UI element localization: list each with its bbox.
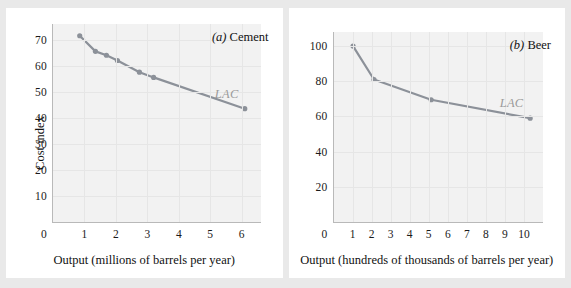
y-axis-tick-cement: 10 (35, 190, 47, 202)
y-axis-tick-beer: 20 (316, 181, 328, 193)
data-point-marker (242, 106, 247, 111)
gridline-vertical (353, 32, 354, 222)
x-axis-tick-beer: 10 (518, 228, 530, 240)
x-axis-tick-beer: 3 (388, 228, 394, 240)
y-axis-tick-beer: 80 (316, 75, 328, 87)
gridline-vertical (410, 32, 411, 222)
x-axis-label-beer: Output (hundreds of thousands of barrels… (289, 253, 566, 268)
gridline-vertical (429, 32, 430, 222)
panel-title-text-cement: Cement (230, 30, 269, 44)
y-axis-tick-beer: 60 (316, 110, 328, 122)
gridline-vertical (486, 32, 487, 222)
x-axis-tick-cement: 1 (82, 228, 88, 240)
gridline-vertical (524, 32, 525, 222)
y-axis-tick-cement: 50 (35, 86, 47, 98)
gridline-vertical (505, 32, 506, 222)
panel-beer: 20406080100012345678910LAC (b) Beer Outp… (289, 8, 566, 278)
lac-series-label-cement: LAC (215, 87, 239, 102)
x-axis-tick-beer: 2 (369, 228, 375, 240)
y-axis-tick-cement: 70 (35, 34, 47, 46)
x-axis-tick-beer: 6 (445, 228, 451, 240)
panel-title-text-beer: Beer (527, 38, 551, 52)
x-axis-label-cement: Output (millions of barrels per year) (6, 253, 283, 268)
panel-title-beer: (b) Beer (510, 38, 551, 53)
gridline-vertical (210, 24, 211, 222)
data-point-marker (104, 53, 109, 58)
figure-container: Cost index 102030405060700123456LAC (a) … (0, 0, 571, 288)
y-axis-tick-cement: 30 (35, 138, 47, 150)
panel-cement: Cost index 102030405060700123456LAC (a) … (6, 8, 283, 278)
x-axis-tick-beer: 7 (464, 228, 470, 240)
x-axis-tick-cement: 5 (207, 228, 213, 240)
x-axis-tick-beer: 8 (483, 228, 489, 240)
gridline-vertical (147, 24, 148, 222)
data-point-marker (93, 49, 98, 54)
gridline-vertical (448, 32, 449, 222)
gridline-vertical (116, 24, 117, 222)
x-axis-tick-cement: 2 (113, 228, 119, 240)
x-axis-tick-cement: 4 (176, 228, 182, 240)
x-axis-tick-cement: 6 (239, 228, 245, 240)
data-point-marker (77, 33, 82, 38)
y-axis-tick-beer: 100 (310, 40, 328, 52)
data-point-marker (151, 75, 156, 80)
lac-series-label-beer: LAC (500, 96, 524, 111)
plot-area-beer: 20406080100012345678910LAC (333, 32, 544, 223)
x-axis-tick-cement: 3 (144, 228, 150, 240)
y-axis-tick-cement: 60 (35, 60, 47, 72)
gridline-vertical (242, 24, 243, 222)
panel-title-prefix-beer: (b) (510, 38, 525, 52)
gridline-vertical (179, 24, 180, 222)
y-axis-tick-cement: 40 (35, 112, 47, 124)
x-axis-tick-beer: 1 (350, 228, 356, 240)
y-axis-tick-cement: 20 (35, 164, 47, 176)
lac-curve-beer (334, 32, 544, 222)
data-point-marker (137, 70, 142, 75)
gridline-vertical (467, 32, 468, 222)
x-axis-tick-beer: 9 (502, 228, 508, 240)
gridline-vertical (372, 32, 373, 222)
x-axis-tick-zero-cement: 0 (41, 228, 47, 240)
gridline-vertical (84, 24, 85, 222)
gridline-horizontal (334, 116, 544, 117)
gridline-horizontal (334, 152, 544, 153)
gridline-horizontal (334, 81, 544, 82)
gridline-horizontal (334, 187, 544, 188)
x-axis-tick-beer: 4 (407, 228, 413, 240)
gridline-vertical (391, 32, 392, 222)
plot-area-cement: 102030405060700123456LAC (52, 24, 261, 223)
panel-title-prefix-cement: (a) (212, 30, 227, 44)
x-axis-tick-zero-beer: 0 (322, 228, 328, 240)
x-axis-tick-beer: 5 (426, 228, 432, 240)
y-axis-tick-beer: 40 (316, 146, 328, 158)
panel-title-cement: (a) Cement (212, 30, 269, 45)
